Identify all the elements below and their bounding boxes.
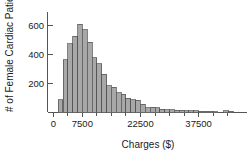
histogram-bar xyxy=(203,111,208,112)
y-tick-label-400: 400 xyxy=(28,49,44,60)
x-tick-label: 7500 xyxy=(72,118,93,129)
histogram-bar xyxy=(73,36,78,112)
histogram-bar xyxy=(111,87,116,112)
histogram-bar xyxy=(145,108,150,113)
x-tick-label: 37500 xyxy=(185,118,211,129)
histogram-bar xyxy=(97,64,102,113)
y-tick-label-200: 200 xyxy=(28,78,44,89)
histogram-bar xyxy=(58,100,63,113)
x-tick-label: 22500 xyxy=(127,118,153,129)
histogram-bar xyxy=(208,111,213,112)
histogram-bar xyxy=(160,109,165,112)
histogram-bar xyxy=(68,44,73,113)
histogram-chart: 600 400 200 # of Female Cardiac Patients… xyxy=(0,0,250,154)
histogram-bar xyxy=(126,98,131,112)
histogram-bar xyxy=(194,111,199,113)
histogram-bar xyxy=(140,104,145,112)
histogram-bar xyxy=(184,111,189,113)
histogram-bar xyxy=(213,112,218,113)
histogram-bar xyxy=(102,74,107,112)
histogram-bar xyxy=(155,108,160,113)
histogram-bar xyxy=(179,110,184,112)
x-tick-label: 0 xyxy=(51,118,56,129)
histogram-bar xyxy=(116,93,121,113)
x-axis-tick-labels: 075002250037500 xyxy=(51,118,212,129)
histogram-bar xyxy=(136,100,141,112)
histogram-bar xyxy=(82,30,87,113)
histogram-bar xyxy=(229,111,234,112)
chart-svg: 600 400 200 # of Female Cardiac Patients… xyxy=(0,0,250,154)
histogram-bar xyxy=(78,24,83,112)
histogram-bar xyxy=(121,94,126,112)
histogram-bar xyxy=(63,60,68,113)
y-axis-ticks xyxy=(48,26,53,84)
histogram-bar xyxy=(165,110,170,113)
x-axis-title: Charges ($) xyxy=(122,139,175,150)
y-tick-label-600: 600 xyxy=(28,20,44,31)
histogram-bar xyxy=(224,111,229,113)
y-axis-title: # of Female Cardiac Patients xyxy=(4,0,15,112)
x-axis-ticks xyxy=(53,113,227,118)
histogram-bar xyxy=(189,111,194,113)
histogram-bar xyxy=(87,42,92,112)
histogram-bar xyxy=(150,107,155,112)
histogram-bar xyxy=(174,110,179,112)
histogram-bar xyxy=(131,100,136,113)
histogram-bar xyxy=(199,111,204,112)
histogram-bar xyxy=(92,58,97,113)
histogram-bar xyxy=(107,86,112,113)
histogram-bars xyxy=(58,24,233,112)
histogram-bar xyxy=(170,110,175,113)
